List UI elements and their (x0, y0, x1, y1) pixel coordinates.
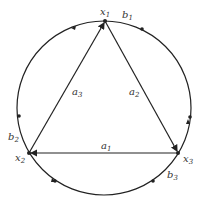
label-a2: a2 (129, 86, 140, 99)
edge-a3 (29, 23, 104, 153)
arc-dot (140, 27, 144, 31)
label-a3: a3 (72, 86, 83, 99)
diagram-canvas: x1 x2 x3 a1 a2 a3 b1 b2 b3 (0, 0, 205, 209)
arc-dot (151, 179, 155, 183)
label-b1: b1 (122, 9, 133, 22)
vertex-x3-dot (176, 151, 180, 155)
label-a1: a1 (101, 140, 111, 153)
label-x1: x1 (100, 6, 110, 19)
label-b3: b3 (167, 169, 178, 182)
vertex-x1-dot (103, 19, 107, 23)
label-x2: x2 (15, 152, 26, 165)
vertex-x2-dot (27, 151, 31, 155)
edge-a2 (105, 21, 177, 151)
arc-dot (188, 115, 192, 119)
arc-dot (17, 114, 21, 118)
label-b2: b2 (8, 131, 19, 144)
label-x3: x3 (183, 153, 194, 166)
outer-circle (17, 21, 191, 195)
